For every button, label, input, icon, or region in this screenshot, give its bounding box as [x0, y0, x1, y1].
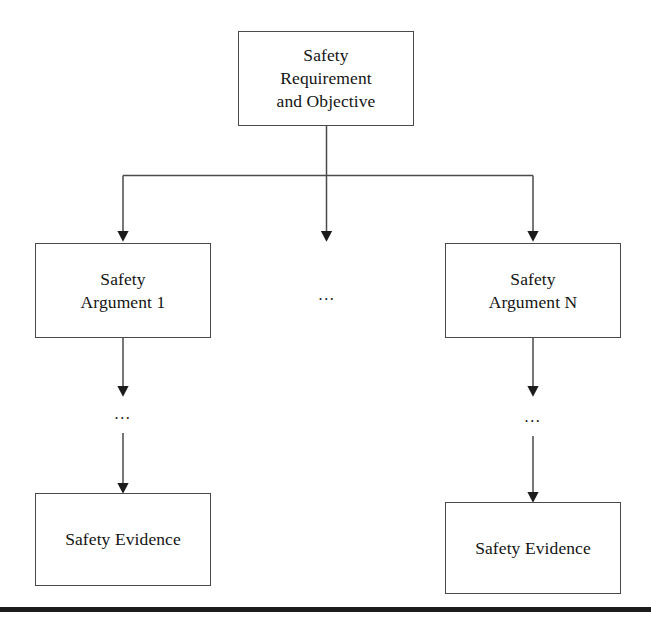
left-chain-ellipsis: ... [102, 406, 144, 422]
right-chain-ellipsis: ... [512, 409, 554, 425]
node-safety-argument-1: Safety Argument 1 [35, 243, 211, 338]
bottom-divider-rule [0, 607, 651, 612]
node-safety-evidence-right: Safety Evidence [445, 502, 621, 594]
node-safety-evidence-left: Safety Evidence [35, 493, 211, 586]
middle-branch-ellipsis: ... [306, 287, 348, 303]
diagram-canvas: Safety Requirement and Objective Safety … [0, 0, 651, 630]
node-safety-requirement-and-objective: Safety Requirement and Objective [238, 31, 414, 126]
node-safety-argument-n: Safety Argument N [445, 243, 621, 338]
